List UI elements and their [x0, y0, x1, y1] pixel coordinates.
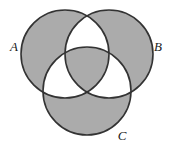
venn-diagram-svg: A B C	[0, 0, 177, 146]
set-label-c: C	[118, 128, 127, 143]
set-label-b: B	[154, 39, 162, 54]
venn-region-fills	[0, 0, 177, 146]
venn-diagram-figure: A B C	[0, 0, 177, 146]
set-label-a: A	[9, 39, 18, 54]
